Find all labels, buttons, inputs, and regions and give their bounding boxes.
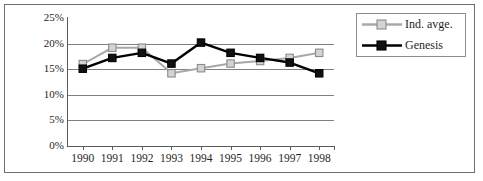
- data-point-marker: [197, 64, 204, 71]
- data-point-marker: [168, 70, 175, 77]
- data-point-marker: [227, 60, 234, 67]
- series-layer: [68, 18, 334, 146]
- x-axis-tick: [319, 146, 320, 150]
- x-axis-tick-label: 1998: [297, 152, 341, 165]
- data-point-marker: [138, 49, 145, 56]
- x-axis-tick: [290, 146, 291, 150]
- data-point-marker: [197, 39, 204, 46]
- x-axis-tick: [112, 146, 113, 150]
- legend-marker-ind-avge-icon: [361, 14, 403, 35]
- data-point-marker: [256, 54, 263, 61]
- data-point-marker: [316, 70, 323, 77]
- legend-item-ind-avge: Ind. avge.: [357, 14, 465, 35]
- data-point-marker: [168, 60, 175, 67]
- chart-legend: Ind. avge. Genesis: [356, 13, 466, 57]
- y-axis-tick-label: 20%: [30, 38, 64, 49]
- y-axis-labels: 0%5%10%15%20%25%: [28, 0, 64, 181]
- legend-label-genesis: Genesis: [405, 38, 443, 53]
- x-axis-tick: [83, 146, 84, 150]
- data-point-marker: [316, 49, 323, 56]
- legend-marker-genesis-icon: [361, 35, 403, 56]
- data-point-marker: [109, 44, 116, 51]
- data-point-marker: [286, 59, 293, 66]
- x-axis-tick: [171, 146, 172, 150]
- legend-label-ind-avge: Ind. avge.: [405, 17, 453, 32]
- x-axis-tick: [142, 146, 143, 150]
- x-axis-tick: [231, 146, 232, 150]
- y-axis-tick-label: 5%: [30, 114, 64, 125]
- x-axis-tick: [260, 146, 261, 150]
- x-axis-tick: [334, 146, 335, 150]
- x-axis-tick: [201, 146, 202, 150]
- plot-area: [68, 18, 334, 146]
- data-point-marker: [79, 65, 86, 72]
- data-point-marker: [109, 54, 116, 61]
- line-chart: 0%5%10%15%20%25% 19901991199219931994199…: [0, 0, 483, 181]
- y-axis-tick-label: 25%: [30, 12, 64, 23]
- y-axis-tick-label: 15%: [30, 63, 64, 74]
- data-point-marker: [227, 49, 234, 56]
- y-axis-tick-label: 0%: [30, 140, 64, 151]
- y-axis-tick-label: 10%: [30, 89, 64, 100]
- legend-item-genesis: Genesis: [357, 35, 465, 56]
